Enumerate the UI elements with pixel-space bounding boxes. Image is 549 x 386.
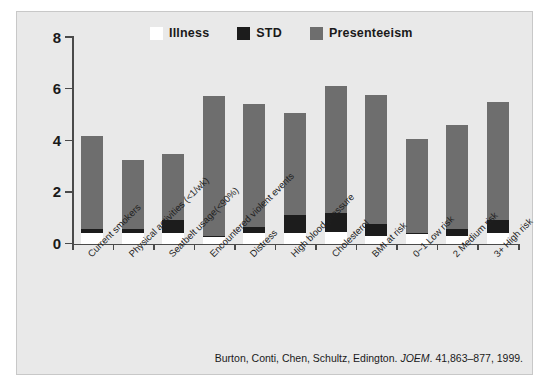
plot-area: 02468 Current smokersPhysical activities…	[0, 0, 549, 386]
citation-journal: JOEM	[400, 352, 429, 364]
x-tick-1	[113, 244, 115, 250]
bar-segment-presenteeism	[325, 86, 347, 212]
bar-segment-std	[243, 227, 265, 233]
bar-group	[284, 37, 306, 244]
y-tick-6	[65, 88, 72, 90]
y-tick-label-2: 2	[33, 184, 61, 199]
bar-group	[365, 37, 387, 244]
x-tick-3	[194, 244, 196, 250]
x-tick-8	[396, 244, 398, 250]
x-tick-2	[153, 244, 155, 250]
bar-segment-presenteeism	[406, 139, 428, 233]
citation-authors: Burton, Conti, Chen, Schultz, Edington.	[215, 352, 398, 364]
bar-segment-std	[406, 233, 428, 234]
citation-details: . 41,863–877, 1999.	[430, 352, 523, 364]
x-tick-6	[315, 244, 317, 250]
bar-group	[406, 37, 428, 244]
bar-segment-presenteeism	[487, 102, 509, 221]
bar-group	[446, 37, 468, 244]
x-tick-9	[437, 244, 439, 250]
y-tick-label-8: 8	[33, 30, 61, 45]
y-tick-label-0: 0	[33, 236, 61, 251]
y-tick-8	[65, 36, 72, 38]
x-tick-7	[356, 244, 358, 250]
x-tick-11	[518, 244, 520, 250]
x-tick-0	[72, 244, 74, 250]
bar-segment-std	[284, 215, 306, 233]
y-tick-2	[65, 191, 72, 193]
y-tick-label-6: 6	[33, 81, 61, 96]
x-tick-4	[234, 244, 236, 250]
bar-segment-presenteeism	[365, 95, 387, 224]
x-tick-5	[275, 244, 277, 250]
bar-segment-presenteeism	[284, 113, 306, 215]
y-tick-label-4: 4	[33, 133, 61, 148]
bar-segment-presenteeism	[81, 136, 103, 229]
y-axis-line	[72, 36, 74, 245]
y-tick-4	[65, 140, 72, 142]
x-tick-10	[477, 244, 479, 250]
chart-figure: Illness STD Presenteeism 02468 Current s…	[0, 0, 549, 386]
bar-segment-std	[81, 229, 103, 233]
y-tick-0	[65, 243, 72, 245]
bar-group	[81, 37, 103, 244]
bar-segment-std	[122, 229, 144, 233]
citation: Burton, Conti, Chen, Schultz, Edington. …	[215, 352, 523, 364]
